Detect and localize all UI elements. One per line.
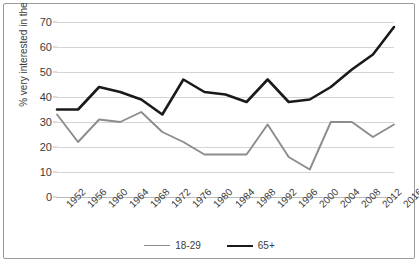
y-tick-label-10: 10 [8,167,52,178]
legend-swatch [144,245,170,246]
y-tick-label-0: 0 [8,192,52,203]
x-tick-label-2008: 2008 [359,202,367,210]
x-tick-label-1968: 1968 [148,202,156,210]
x-tick-label-1984: 1984 [233,202,241,210]
x-tick-label-1996: 1996 [296,202,304,210]
chart-container: % very interested in the campaign 010203… [0,0,419,263]
x-tick-label-1960: 1960 [106,202,114,210]
y-tick-label-70: 70 [8,17,52,28]
x-tick-label-2016: 2016 [401,202,409,210]
series-line-65plus [57,27,394,115]
x-tick-label-1976: 1976 [190,202,198,210]
plot-area [57,22,394,197]
x-tick-label-1956: 1956 [85,202,93,210]
legend-item[interactable]: 65+ [227,240,275,251]
legend-item[interactable]: 18-29 [144,240,201,251]
x-tick-label-1988: 1988 [254,202,262,210]
series-svg [57,22,394,197]
y-axis: 010203040506070 [3,22,52,197]
chart-legend: 18-2965+ [0,240,419,251]
x-tick-label-1980: 1980 [211,202,219,210]
legend-swatch [227,245,253,247]
y-tick-label-30: 30 [8,117,52,128]
legend-label: 65+ [258,240,275,251]
x-axis: 1952195619601964196819721976198019841988… [57,199,394,239]
x-tick-label-2004: 2004 [338,202,346,210]
y-tick-label-50: 50 [8,67,52,78]
x-tick-label-2000: 2000 [317,202,325,210]
y-tick-label-60: 60 [8,42,52,53]
y-tick-label-20: 20 [8,142,52,153]
y-tick-label-40: 40 [8,92,52,103]
series-line-18-29 [57,112,394,170]
x-tick-label-2012: 2012 [380,202,388,210]
x-tick-label-1952: 1952 [64,202,72,210]
x-tick-label-1972: 1972 [169,202,177,210]
x-tick-label-1964: 1964 [127,202,135,210]
x-tick-label-1992: 1992 [275,202,283,210]
legend-label: 18-29 [175,240,201,251]
